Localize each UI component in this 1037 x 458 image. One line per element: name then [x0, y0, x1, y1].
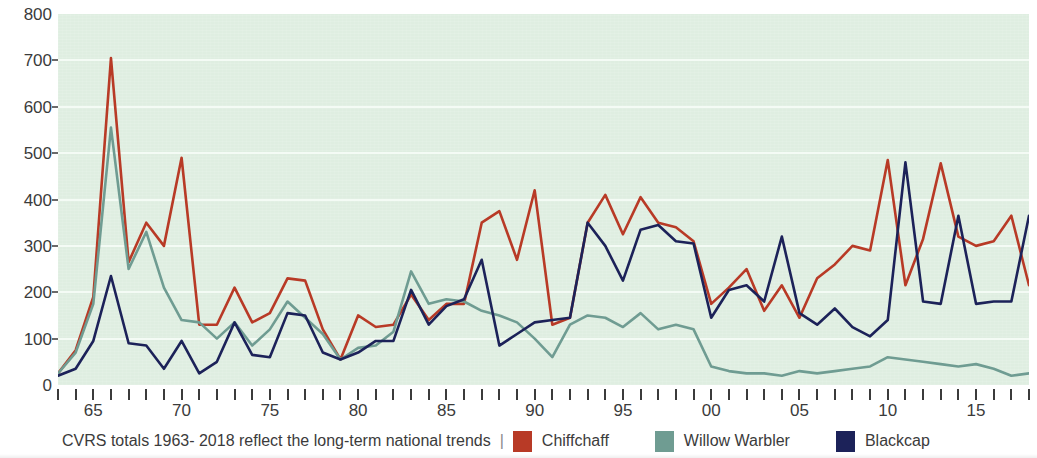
x-axis: 6570758085909500051015 [58, 385, 1029, 405]
x-axis-tick-mark [675, 389, 677, 400]
x-axis-tick-mark [216, 389, 218, 400]
x-axis-tick-mark [851, 389, 853, 400]
legend: ChiffchaffWillow WarblerBlackcap [513, 431, 976, 452]
x-axis-tick-mark [375, 389, 377, 400]
x-axis-tick-mark [428, 389, 430, 400]
x-axis-tick-mark [922, 389, 924, 400]
x-axis-tick-mark [163, 389, 165, 400]
x-axis-tick-label: 05 [790, 401, 809, 421]
x-axis-tick-mark [834, 389, 836, 400]
x-axis-tick-mark [798, 389, 800, 400]
x-axis-tick-mark [940, 389, 942, 400]
x-axis-tick-mark [657, 389, 659, 400]
y-axis: 0100200300400500600700800 [0, 14, 52, 385]
x-axis-tick-mark [587, 389, 589, 400]
x-axis-tick-mark [710, 389, 712, 400]
x-axis-tick-mark [904, 389, 906, 400]
plot-area [58, 14, 1029, 385]
legend-color-swatch-icon [655, 431, 674, 452]
legend-item-chiffchaff[interactable]: Chiffchaff [513, 431, 609, 452]
legend-label: Chiffchaff [542, 432, 609, 450]
x-axis-tick-mark [534, 389, 536, 400]
x-axis-tick-mark [781, 389, 783, 400]
x-axis-tick-label: 00 [702, 401, 721, 421]
x-axis-tick-mark [198, 389, 200, 400]
x-axis-tick-mark [392, 389, 394, 400]
x-axis-tick-label: 80 [349, 401, 368, 421]
y-axis-tick-label: 800 [6, 6, 52, 23]
x-axis-tick-mark [357, 389, 359, 400]
page-edge [0, 454, 1037, 458]
legend-item-blackcap[interactable]: Blackcap [836, 431, 930, 452]
legend-label: Willow Warbler [684, 432, 790, 450]
x-axis-tick-mark [957, 389, 959, 400]
x-axis-tick-mark [569, 389, 571, 400]
x-axis-tick-mark [339, 389, 341, 400]
x-axis-tick-mark [728, 389, 730, 400]
x-axis-tick-mark [110, 389, 112, 400]
x-axis-tick-mark [640, 389, 642, 400]
x-axis-tick-label: 15 [967, 401, 986, 421]
caption-and-legend: CVRS totals 1963- 2018 reflect the long-… [0, 428, 1037, 454]
y-axis-tick-label: 600 [6, 98, 52, 115]
x-axis-tick-mark [516, 389, 518, 400]
x-axis-tick-label: 90 [525, 401, 544, 421]
x-axis-tick-mark [410, 389, 412, 400]
x-axis-tick-label: 95 [613, 401, 632, 421]
x-axis-tick-label: 10 [878, 401, 897, 421]
x-axis-tick-mark [887, 389, 889, 400]
y-axis-tick-label: 200 [6, 284, 52, 301]
chart-page: 0100200300400500600700800 65707580859095… [0, 0, 1037, 458]
x-axis-tick-mark [287, 389, 289, 400]
x-axis-tick-mark [322, 389, 324, 400]
x-axis-tick-mark [145, 389, 147, 400]
x-axis-tick-mark [463, 389, 465, 400]
x-axis-tick-mark [481, 389, 483, 400]
x-axis-tick-label: 75 [260, 401, 279, 421]
x-axis-tick-mark [693, 389, 695, 400]
y-axis-tick-label: 700 [6, 52, 52, 69]
x-axis-tick-mark [269, 389, 271, 400]
x-axis-tick-mark [234, 389, 236, 400]
x-axis-tick-mark [75, 389, 77, 400]
x-axis-tick-mark [746, 389, 748, 400]
x-axis-tick-mark [993, 389, 995, 400]
x-axis-tick-mark [304, 389, 306, 400]
legend-color-swatch-icon [513, 431, 532, 452]
x-axis-tick-label: 65 [84, 401, 103, 421]
y-axis-tick-label: 0 [6, 377, 52, 394]
x-axis-tick-mark [128, 389, 130, 400]
x-axis-tick-mark [763, 389, 765, 400]
x-axis-tick-mark [181, 389, 183, 400]
x-axis-tick-mark [816, 389, 818, 400]
caption-separator: | [500, 432, 504, 450]
series-line-blackcap [58, 162, 1029, 375]
y-axis-tick-label: 500 [6, 145, 52, 162]
x-axis-tick-mark [1028, 389, 1030, 400]
series-lines [58, 14, 1029, 385]
x-axis-tick-label: 85 [437, 401, 456, 421]
y-axis-tick-label: 100 [6, 330, 52, 347]
x-axis-tick-mark [57, 389, 59, 400]
x-axis-tick-mark [869, 389, 871, 400]
y-axis-tick-label: 400 [6, 191, 52, 208]
legend-label: Blackcap [865, 432, 930, 450]
x-axis-tick-mark [92, 389, 94, 400]
x-axis-tick-label: 70 [172, 401, 191, 421]
legend-color-swatch-icon [836, 431, 855, 452]
y-axis-tick-label: 300 [6, 237, 52, 254]
x-axis-tick-mark [1010, 389, 1012, 400]
legend-item-willow-warbler[interactable]: Willow Warbler [655, 431, 790, 452]
chart-caption: CVRS totals 1963- 2018 reflect the long-… [62, 432, 491, 450]
x-axis-tick-mark [498, 389, 500, 400]
x-axis-tick-mark [251, 389, 253, 400]
x-axis-tick-mark [622, 389, 624, 400]
x-axis-tick-mark [975, 389, 977, 400]
x-axis-tick-mark [604, 389, 606, 400]
x-axis-tick-mark [445, 389, 447, 400]
x-axis-tick-mark [551, 389, 553, 400]
